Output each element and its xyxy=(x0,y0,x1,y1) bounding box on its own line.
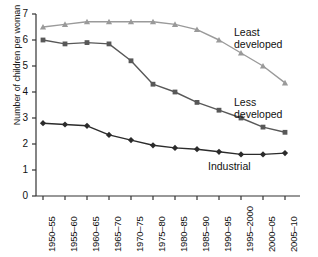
data-point-marker xyxy=(150,142,156,148)
data-point-marker xyxy=(129,58,134,63)
data-point-marker xyxy=(238,151,244,157)
x-tick-marks xyxy=(43,196,285,200)
data-point-marker xyxy=(283,130,288,135)
data-point-marker xyxy=(260,63,266,69)
data-point-marker xyxy=(216,149,222,155)
data-point-marker xyxy=(85,40,90,45)
fertility-line-chart: Number of children per woman 01234567 19… xyxy=(0,0,318,257)
data-point-marker xyxy=(261,125,266,130)
series-label-least-line2: developed xyxy=(234,38,282,50)
data-point-marker xyxy=(63,42,68,47)
data-point-marker xyxy=(41,38,46,43)
data-point-marker xyxy=(282,150,288,156)
data-point-marker xyxy=(107,42,112,47)
data-point-marker xyxy=(106,132,112,138)
data-point-marker xyxy=(173,90,178,95)
data-point-marker xyxy=(172,145,178,151)
series-line xyxy=(43,123,285,154)
data-point-marker xyxy=(84,123,90,129)
data-point-marker xyxy=(195,100,200,105)
series-label-industrial: Industrial xyxy=(208,160,251,172)
series-less-developed xyxy=(41,38,288,135)
series-label-less-line1: Less xyxy=(234,96,282,108)
series-label-least-developed: Least developed xyxy=(234,26,282,50)
series-label-industrial-line1: Industrial xyxy=(208,160,251,172)
series-label-less-line2: developed xyxy=(234,108,282,120)
series-label-least-line1: Least xyxy=(234,26,282,38)
data-point-marker xyxy=(40,120,46,126)
data-point-marker xyxy=(62,121,68,127)
data-point-marker xyxy=(151,82,156,87)
data-point-marker xyxy=(260,151,266,157)
series-industrial xyxy=(40,120,288,157)
series-label-less-developed: Less developed xyxy=(234,96,282,120)
data-point-marker xyxy=(238,50,244,56)
data-point-marker xyxy=(217,108,222,113)
data-point-marker xyxy=(194,146,200,152)
data-point-marker xyxy=(128,137,134,143)
